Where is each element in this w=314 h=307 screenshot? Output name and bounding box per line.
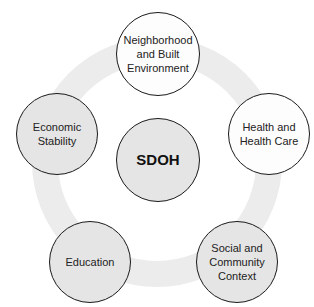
node-social: Social and Community Context bbox=[196, 221, 278, 303]
node-economic: Economic Stability bbox=[16, 93, 98, 175]
node-center-sdoh: SDOH bbox=[116, 118, 200, 202]
node-social-label: Social and Community Context bbox=[201, 241, 273, 283]
node-economic-label: Economic Stability bbox=[25, 120, 89, 148]
center-label: SDOH bbox=[132, 153, 183, 167]
node-education: Education bbox=[49, 221, 131, 303]
node-neighborhood-label: Neighborhood and Built Environment bbox=[115, 33, 200, 75]
node-education-label: Education bbox=[58, 255, 123, 269]
node-health-label: Health and Health Care bbox=[232, 120, 307, 148]
node-neighborhood: Neighborhood and Built Environment bbox=[116, 12, 200, 96]
node-health: Health and Health Care bbox=[228, 93, 310, 175]
